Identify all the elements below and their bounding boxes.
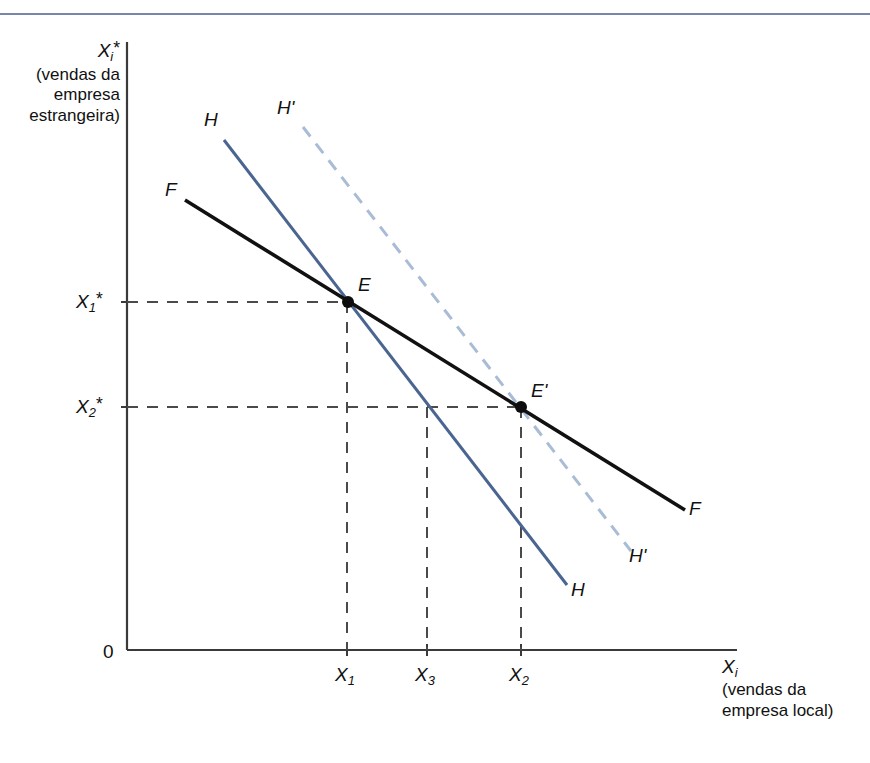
point-e [342,296,354,308]
curve-h-prime [303,127,631,551]
curve-label-h-prime-start: H' [277,96,294,119]
curve-label-h-end: H [571,578,585,601]
origin-label: 0 [103,640,114,663]
y-tick-label-x1star: X1* [76,289,103,316]
y-axis-variable: Xi* [0,38,120,65]
point-label-e: E [358,273,371,296]
curve-label-h-start: H [204,108,218,131]
y-axis-label: Xi* (vendas da empresa estrangeira) [0,38,120,127]
y-tick-label-x2star: X2* [76,394,103,421]
point-e-prime [515,401,527,413]
curve-h [224,140,567,585]
curve-label-h-prime-end: H' [629,544,646,567]
x-axis-caption-line2: empresa local) [722,701,834,722]
x-tick-label-x1: X1 [335,663,355,688]
point-label-e-prime: E' [531,379,547,402]
x-axis-variable: Xi [722,655,834,680]
y-axis-caption-line3: estrangeira) [0,106,120,127]
diagram-canvas [0,0,870,763]
x-axis-caption-line1: (vendas da [722,680,834,701]
x-tick-label-x2: X2 [509,663,529,688]
curve-f [185,200,685,510]
x-axis-label: Xi (vendas da empresa local) [722,655,834,722]
x-tick-label-x3: X3 [415,663,435,688]
y-axis-caption-line1: (vendas da [0,65,120,86]
curve-label-f-end: F [689,497,701,520]
y-axis-caption-line2: empresa [0,85,120,106]
figure-root: Xi* (vendas da empresa estrangeira) Xi (… [0,0,870,763]
curve-label-f-start: F [165,178,177,201]
